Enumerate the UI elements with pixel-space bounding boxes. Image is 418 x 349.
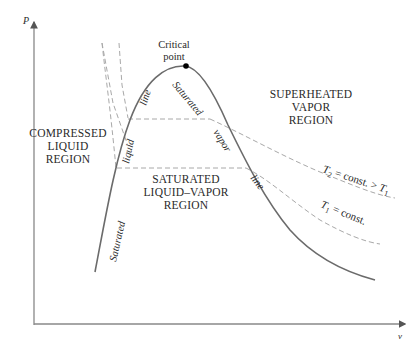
svg-text:LIQUID–VAPOR: LIQUID–VAPOR <box>143 186 228 198</box>
svg-text:REGION: REGION <box>46 153 91 165</box>
svg-text:VAPOR: VAPOR <box>292 101 331 113</box>
p-v-diagram: P v Critical point Saturated liquid line… <box>0 0 418 349</box>
svg-text:COMPRESSED: COMPRESSED <box>29 127 106 139</box>
critical-point-label: Critical <box>158 39 190 50</box>
p-axis-label: P <box>22 15 29 26</box>
compressed-liquid-region: COMPRESSED LIQUID REGION <box>29 127 106 165</box>
sat-vapor-label-line: line <box>248 172 267 191</box>
svg-text:REGION: REGION <box>289 114 334 126</box>
saturated-liquid-vapor-region: SATURATED LIQUID–VAPOR REGION <box>143 173 228 211</box>
critical-point-marker <box>183 63 189 69</box>
critical-point-label-2: point <box>163 51 185 62</box>
svg-text:LIQUID: LIQUID <box>48 140 89 152</box>
sat-vapor-label-saturated: Saturated <box>170 79 205 118</box>
isotherm-t1-liquid <box>119 43 128 118</box>
v-axis-label: v <box>398 331 402 341</box>
superheated-vapor-region: SUPERHEATED VAPOR REGION <box>270 88 353 126</box>
svg-text:SUPERHEATED: SUPERHEATED <box>270 88 353 100</box>
isotherm-t1-label: T1 = const. <box>318 198 368 230</box>
isotherm-t2-label: T2 = const. > T1 <box>320 162 391 198</box>
sat-liquid-label-line: line <box>137 88 152 107</box>
svg-text:SATURATED: SATURATED <box>152 173 220 185</box>
svg-text:REGION: REGION <box>164 199 209 211</box>
sat-liquid-label-saturated: Saturated <box>107 219 127 262</box>
